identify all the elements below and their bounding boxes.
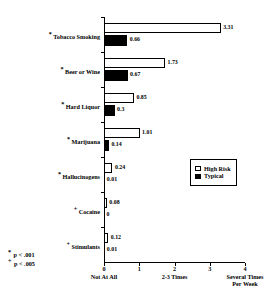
- x-tick-number-4: 4: [233, 266, 257, 272]
- x-tick-caption-0: Not At All: [78, 273, 130, 280]
- x-tick-number-1: 1: [127, 266, 151, 272]
- bar-high-risk-4: [104, 163, 112, 174]
- x-tick-number-3: 3: [198, 266, 222, 272]
- value-label-high-risk-5: 0.08: [109, 200, 119, 206]
- bar-high-risk-2: [104, 93, 134, 104]
- bar-typical-3: [104, 140, 109, 151]
- significance-marker: *: [61, 100, 64, 107]
- bar-high-risk-5: [104, 198, 107, 209]
- category-label-3: *Marijuana: [67, 136, 100, 145]
- category-label-2: *Hard Liquor: [61, 101, 100, 110]
- value-label-typical-5: 0: [107, 212, 110, 218]
- significance-marker: *: [49, 30, 52, 37]
- bar-high-risk-1: [104, 58, 165, 69]
- legend-swatch-typical: [195, 174, 201, 180]
- footnote-marker: *: [8, 248, 11, 255]
- category-label-6: +Stimulants: [66, 241, 100, 250]
- value-label-typical-4: 0.01: [107, 177, 117, 183]
- category-label-text: Beer or Wine: [65, 68, 100, 75]
- significance-marker: *: [60, 65, 63, 72]
- value-label-typical-1: 0.67: [130, 72, 140, 78]
- x-tick-caption-4: Several Times Per Week: [219, 273, 266, 287]
- category-label-1: *Beer or Wine: [60, 66, 100, 75]
- x-tick-number-0: 0: [92, 266, 116, 272]
- category-label-text: Cocaine: [79, 208, 100, 215]
- category-tick: [101, 87, 105, 88]
- value-label-typical-6: 0.01: [107, 247, 117, 253]
- category-tick: [101, 192, 105, 193]
- value-label-high-risk-3: 1.01: [142, 130, 152, 136]
- footnote-text: p < .005: [14, 260, 35, 267]
- category-tick: [101, 52, 105, 53]
- x-tick-caption-2: 2-3 Times: [149, 273, 201, 280]
- value-label-high-risk-4: 0.24: [115, 165, 125, 171]
- category-label-text: Stimulants: [71, 243, 100, 250]
- bar-typical-0: [104, 35, 127, 46]
- bar-typical-1: [104, 70, 128, 81]
- value-label-high-risk-1: 1.73: [167, 60, 177, 66]
- category-label-text: Hallucinogens: [63, 173, 100, 180]
- category-label-text: Tobacco Smoking: [53, 33, 100, 40]
- footnote-1: +p < .005: [8, 258, 35, 267]
- legend-item-0: High Risk: [195, 166, 231, 172]
- legend-item-1: Typical: [195, 173, 231, 179]
- significance-marker: *: [58, 170, 61, 177]
- value-label-typical-0: 0.66: [130, 37, 140, 43]
- bar-high-risk-0: [104, 23, 221, 34]
- value-label-high-risk-6: 0.12: [111, 235, 121, 241]
- significance-marker: *: [67, 135, 70, 142]
- x-tick-number-2: 2: [163, 266, 187, 272]
- category-label-5: +Cocaine: [74, 206, 100, 215]
- category-label-text: Hard Liquor: [66, 103, 100, 110]
- bar-high-risk-3: [104, 128, 140, 139]
- significance-marker: +: [74, 205, 78, 212]
- footnote-text: p < .001: [14, 251, 35, 258]
- substance-use-bar-chart: *Tobacco Smoking3.310.66*Beer or Wine1.7…: [0, 0, 266, 294]
- category-label-text: Marijuana: [71, 138, 100, 145]
- category-tick: [101, 17, 105, 18]
- category-tick: [101, 227, 105, 228]
- bar-typical-2: [104, 105, 115, 116]
- category-label-4: *Hallucinogens: [58, 171, 100, 180]
- significance-marker: +: [66, 240, 70, 247]
- chart-legend: High RiskTypical: [190, 159, 237, 186]
- legend-swatch-high-risk: [195, 166, 201, 172]
- category-tick: [101, 157, 105, 158]
- value-label-typical-2: 0.3: [117, 107, 124, 113]
- value-label-typical-3: 0.14: [111, 142, 121, 148]
- value-label-high-risk-0: 3.31: [223, 25, 233, 31]
- legend-label-1: Typical: [204, 173, 223, 179]
- footnote-marker: +: [8, 257, 12, 264]
- value-label-high-risk-2: 0.85: [136, 95, 146, 101]
- legend-label-0: High Risk: [204, 166, 231, 172]
- bar-high-risk-6: [104, 233, 108, 244]
- category-tick: [101, 122, 105, 123]
- category-label-0: *Tobacco Smoking: [49, 31, 100, 40]
